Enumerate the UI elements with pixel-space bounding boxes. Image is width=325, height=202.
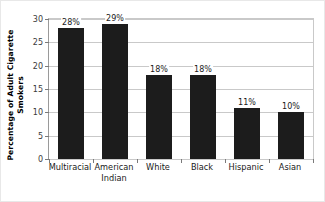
bar[interactable]: 18% bbox=[146, 75, 172, 159]
y-axis-tick-label: 10 bbox=[33, 108, 43, 117]
y-axis-tick-label: 20 bbox=[33, 61, 43, 70]
y-axis-title-line-1: Percentage of Adult Cigarette bbox=[6, 29, 16, 160]
x-axis-category-label: Multiracial bbox=[48, 162, 92, 173]
bar-value-label: 18% bbox=[149, 65, 169, 74]
x-axis-category-label: Hispanic bbox=[224, 162, 268, 173]
y-axis-tick-label: 25 bbox=[33, 38, 43, 47]
bar-value-label: 11% bbox=[237, 98, 257, 107]
y-gridline bbox=[49, 66, 313, 67]
y-axis-tick bbox=[45, 89, 49, 90]
y-axis-tick bbox=[45, 42, 49, 43]
y-axis-title-line-2: Smokers bbox=[16, 76, 26, 114]
x-axis-tick bbox=[313, 159, 314, 163]
bar[interactable]: 28% bbox=[58, 28, 84, 159]
x-axis-category-label: White bbox=[136, 162, 180, 173]
y-axis-tick-label: 30 bbox=[33, 15, 43, 24]
y-axis-tick-label: 0 bbox=[38, 155, 43, 164]
bar-value-label: 29% bbox=[105, 14, 125, 23]
bar[interactable]: 11% bbox=[234, 108, 260, 159]
bar-value-label: 28% bbox=[61, 18, 81, 27]
y-gridline bbox=[49, 19, 313, 20]
bar-value-label: 18% bbox=[193, 65, 213, 74]
y-axis-tick bbox=[45, 136, 49, 137]
bar[interactable]: 10% bbox=[278, 112, 304, 159]
y-axis-title: Percentage of Adult Cigarette Smokers bbox=[2, 15, 30, 175]
bar[interactable]: 29% bbox=[102, 24, 128, 159]
bar-value-label: 10% bbox=[281, 102, 301, 111]
y-axis-tick-label: 15 bbox=[33, 85, 43, 94]
x-axis-category-label: Asian bbox=[268, 162, 312, 173]
y-gridline bbox=[49, 42, 313, 43]
y-gridline bbox=[49, 89, 313, 90]
y-gridline bbox=[49, 136, 313, 137]
y-axis-tick bbox=[45, 112, 49, 113]
y-axis-tick bbox=[45, 19, 49, 20]
bar[interactable]: 18% bbox=[190, 75, 216, 159]
bar-chart-figure: Percentage of Adult Cigarette Smokers 05… bbox=[0, 0, 325, 202]
y-axis-tick-label: 5 bbox=[38, 131, 43, 140]
x-axis-category-label: Black bbox=[180, 162, 224, 173]
plot-area: 05101520253028%29%18%18%11%10% bbox=[48, 18, 314, 160]
y-gridline bbox=[49, 112, 313, 113]
x-axis-category-label: American Indian bbox=[92, 162, 136, 183]
y-axis-tick bbox=[45, 66, 49, 67]
